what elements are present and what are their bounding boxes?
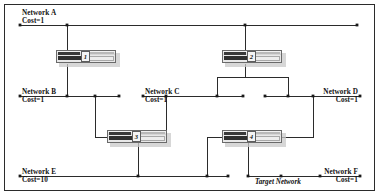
connection-dot	[118, 95, 121, 98]
connection-dot	[247, 175, 250, 178]
router-side-panel-upper	[90, 52, 114, 55]
connection-dot	[242, 95, 245, 98]
router-port-bank-lower	[109, 136, 133, 140]
connection-dot	[66, 24, 69, 27]
router-side-panel-lower	[87, 56, 114, 60]
router-port-bank-upper	[224, 132, 246, 135]
connection-dot	[227, 175, 230, 178]
connection-dot	[356, 24, 359, 27]
connection-dot	[137, 175, 140, 178]
router-side-panel-lower	[253, 56, 280, 60]
connection-dot	[244, 24, 247, 27]
router-number-label: 4	[247, 133, 256, 140]
target-network-annotation: Target Network	[255, 178, 301, 186]
network-cost: Cost=1	[22, 17, 56, 25]
network-cost: Cost=1	[22, 96, 56, 104]
connection-dot	[142, 95, 145, 98]
connection-dot	[359, 95, 362, 98]
link-router-2-to-network-c	[217, 64, 245, 96]
connection-dot	[19, 95, 22, 98]
network-cost: Cost=10	[22, 176, 56, 184]
connection-dot	[216, 95, 219, 98]
router-number-label: 3	[132, 133, 141, 140]
link-network-e-to-router-4	[207, 137, 222, 176]
connection-dot	[66, 95, 69, 98]
router-port-bank-upper	[224, 52, 246, 55]
connection-dot	[312, 95, 315, 98]
network-cost: Cost=1	[324, 176, 358, 184]
label-network-c: Network CCost=1	[145, 88, 180, 105]
label-network-a: Network ACost=1	[22, 9, 56, 26]
label-network-d: Network DCost=1	[323, 88, 358, 105]
router-2-device[interactable]: 2	[222, 50, 286, 67]
router-side-panel-upper	[256, 132, 280, 135]
network-diagram-canvas: Network ACost=1Network BCost=1Network CC…	[0, 0, 380, 196]
connection-dot	[287, 95, 290, 98]
connection-dot	[206, 175, 209, 178]
router-4-device[interactable]: 4	[222, 130, 286, 147]
router-side-panel-lower	[138, 136, 165, 140]
network-name: Network D	[323, 88, 358, 96]
link-router-2-to-network-d	[245, 64, 288, 96]
router-port-bank-lower	[224, 136, 248, 140]
connection-dot	[359, 175, 362, 178]
network-cost: Cost=1	[145, 96, 180, 104]
connection-dot	[19, 175, 22, 178]
connection-dot	[19, 24, 22, 27]
label-network-f: Network FCost=1	[324, 168, 358, 185]
router-1-device[interactable]: 1	[56, 50, 120, 67]
router-side-panel-upper	[256, 52, 280, 55]
router-port-bank-lower	[224, 56, 248, 60]
router-number-label: 2	[247, 53, 256, 60]
label-network-b: Network BCost=1	[22, 88, 56, 105]
router-port-bank-upper	[58, 52, 80, 55]
network-name: Network B	[22, 88, 56, 96]
connection-dot	[264, 95, 267, 98]
label-network-e: Network ECost=10	[22, 168, 56, 185]
connection-dot	[280, 175, 283, 178]
network-name: Network E	[22, 168, 56, 176]
network-name: Network C	[145, 88, 180, 96]
network-name: Network F	[324, 168, 358, 176]
network-cost: Cost=1	[323, 96, 358, 104]
router-side-panel-upper	[141, 132, 165, 135]
router-3-device[interactable]: 3	[107, 130, 171, 147]
connection-dot	[94, 95, 97, 98]
router-number-label: 1	[81, 53, 90, 60]
router-port-bank-upper	[109, 132, 131, 135]
connection-dot	[319, 175, 322, 178]
router-port-bank-lower	[58, 56, 82, 60]
network-name: Network A	[22, 9, 56, 17]
router-side-panel-lower	[253, 136, 280, 140]
link-network-b-to-router-3	[95, 96, 107, 137]
